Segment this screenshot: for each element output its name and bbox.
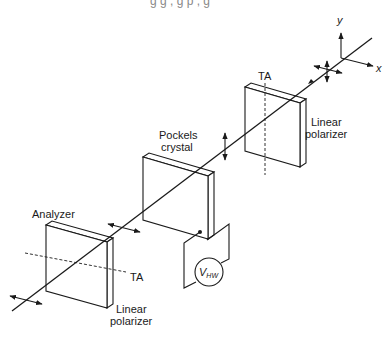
- analyzer-label-line2: polarizer: [110, 315, 153, 327]
- pockels-label-line2: crystal: [161, 141, 193, 153]
- pockels-label-line1: Pockels: [159, 129, 198, 141]
- analyzer-polarizer: Analyzer TA Linear polarizer: [25, 208, 153, 327]
- input-polarizer-label-line1: Linear: [311, 116, 342, 128]
- analyzer-label-line1: Linear: [116, 303, 147, 315]
- y-axis-label: y: [336, 14, 344, 26]
- optical-beam: [12, 38, 372, 311]
- x-axis-arrow: [341, 58, 373, 66]
- beam-line: [12, 38, 372, 311]
- rotated-polarization-arrow: [108, 224, 140, 232]
- x-axis-label: x: [375, 62, 382, 74]
- input-polarizer-label-line2: polarizer: [305, 128, 348, 140]
- coordinate-axes: y x: [336, 14, 382, 74]
- pockels-cell-modulator-diagram: y x TA Linear polarizer Pockels crystal …: [0, 0, 386, 339]
- input-polarizer-ta-label: TA: [258, 70, 272, 82]
- analyzer-title-label: Analyzer: [32, 208, 75, 220]
- analyzer-ta-label: TA: [130, 271, 144, 283]
